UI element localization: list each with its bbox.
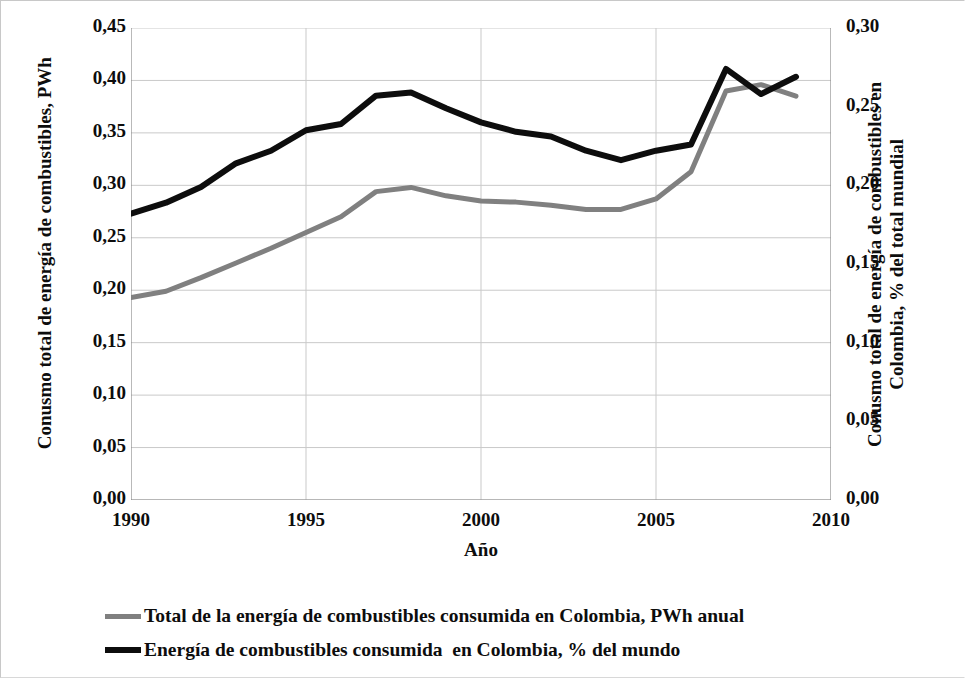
x-tick-label: 2005 — [616, 509, 696, 531]
x-tick-label: 2010 — [791, 509, 871, 531]
data-series — [131, 69, 796, 298]
legend-item-label: Energía de combustibles consumida en Col… — [144, 639, 680, 661]
x-tick-label: 2000 — [441, 509, 521, 531]
chart-legend: Total de la energía de combustibles cons… — [105, 599, 905, 667]
x-tick-label: 1995 — [266, 509, 346, 531]
legend-item-2[interactable]: Energía de combustibles consumida en Col… — [105, 633, 905, 667]
legend-swatch-gray-icon — [105, 614, 141, 619]
legend-swatch-black-icon — [105, 647, 141, 653]
plot-area — [131, 28, 831, 500]
series-line-2 — [131, 69, 796, 214]
x-axis-title: Año — [131, 539, 831, 561]
chart-figure: Conusmo total de energía de combustibles… — [0, 0, 965, 678]
legend-item-1[interactable]: Total de la energía de combustibles cons… — [105, 599, 905, 633]
plot-svg — [131, 28, 831, 500]
x-tick-label: 1990 — [91, 509, 171, 531]
legend-item-label: Total de la energía de combustibles cons… — [144, 605, 744, 627]
